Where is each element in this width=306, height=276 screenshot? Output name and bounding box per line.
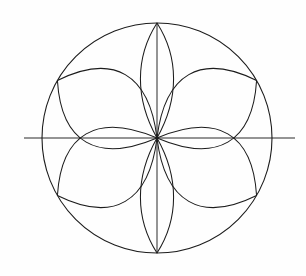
rosette-diagram: Six-petal rosette construction A circle … (0, 0, 306, 276)
figure-canvas: Six-petal rosette construction A circle … (0, 0, 306, 276)
